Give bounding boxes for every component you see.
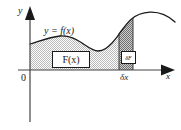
diagram-canvas xyxy=(0,0,181,130)
integral-area-diagram: y x 0 y = f(x) δx F(x) δF xyxy=(0,0,181,130)
y-axis-arrowhead xyxy=(25,6,35,20)
x-axis-arrowhead xyxy=(161,65,175,76)
